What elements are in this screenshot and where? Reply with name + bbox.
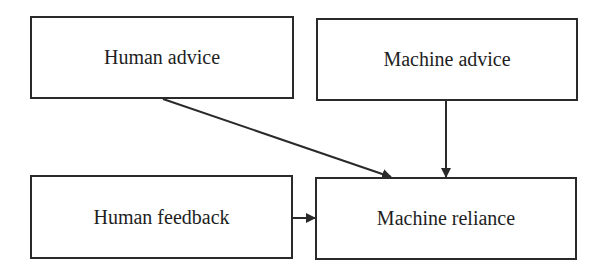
node-label: Machine reliance: [377, 207, 515, 230]
node-label: Human feedback: [93, 206, 229, 229]
node-human-feedback: Human feedback: [30, 175, 293, 259]
node-label: Machine advice: [383, 48, 510, 71]
edge-human-advice-to-machine-reliance: [163, 99, 391, 177]
node-machine-reliance: Machine reliance: [315, 177, 577, 260]
node-human-advice: Human advice: [30, 16, 294, 99]
node-label: Human advice: [104, 46, 220, 69]
node-machine-advice: Machine advice: [316, 18, 578, 101]
